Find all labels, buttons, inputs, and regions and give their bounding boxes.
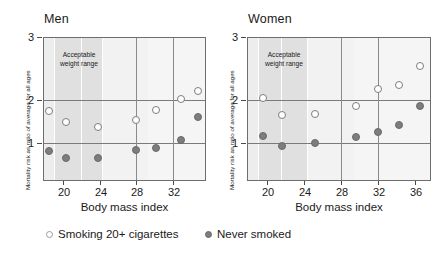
data-point-smoking [374,85,382,93]
panel-men-plot-area: Acceptable weight range [43,37,206,181]
data-point-never-smoked [45,147,53,155]
data-point-never-smoked [94,154,102,162]
data-point-never-smoked [278,142,286,150]
data-point-smoking [352,102,360,110]
panel-men-xtick-mark-28 [136,181,137,185]
panel-women-xtick-20: 20 [256,186,280,198]
panel-men-ytick-1: 1 [20,137,34,149]
gridline-x-28 [136,37,137,181]
data-point-smoking [311,110,319,118]
panel-women-y-axis-label: Mortality risk as ratio of average for a… [228,70,235,190]
panel-men-xtick-20: 20 [52,186,76,198]
panel-women-ytick-mark-3 [241,37,246,38]
panel-men-ytick-2: 2 [20,94,34,106]
panel-women-xtick-36: 36 [404,186,428,198]
panel-women-xtick-mark-20 [267,181,268,185]
annotation-line-2: weight range [265,60,303,67]
data-point-never-smoked [132,146,140,154]
data-point-never-smoked [352,133,360,141]
panel-women-xtick-mark-24 [304,181,305,185]
data-point-never-smoked [62,154,70,162]
band-overweight [102,37,148,181]
panel-women-title: Women [248,12,292,26]
legend-item-never-smoked: Never smoked [205,228,291,240]
data-point-smoking [62,118,70,126]
annotation-acceptable-weight-range: Acceptable weight range [256,51,312,68]
panel-women-plot-area: Acceptable weight range [247,37,431,181]
legend-label-smoking: Smoking 20+ cigarettes [58,228,179,240]
annotation-line-1: Acceptable [63,51,96,58]
data-point-never-smoked [259,132,267,140]
panel-women-xtick-24: 24 [293,186,317,198]
gridline-y-2 [247,100,431,101]
panel-women-x-axis-title: Body mass index [247,201,431,213]
gridline-x-32 [378,37,379,181]
data-point-smoking [132,116,140,124]
data-point-smoking [416,62,424,70]
data-point-smoking [152,106,160,114]
data-point-never-smoked [152,144,160,152]
panel-women-xtick-mark-32 [378,181,379,185]
data-point-smoking [259,94,267,102]
panel-women-ytick-2: 2 [224,94,238,106]
annotation-line-2: weight range [60,60,98,67]
data-point-smoking [194,87,202,95]
legend: Smoking 20+ cigarettes Never smoked [0,228,441,250]
gridline-x-28 [341,37,342,181]
data-point-never-smoked [177,136,185,144]
figure-mortality-risk-bmi: Men Mortality risk as ratio of average f… [0,0,441,254]
panel-women-xtick-mark-36 [415,181,416,185]
panel-men-title: Men [44,12,69,26]
data-point-never-smoked [311,139,319,147]
data-point-never-smoked [395,121,403,129]
gridline-x-32 [173,37,174,181]
data-point-never-smoked [374,128,382,136]
legend-item-smoking: Smoking 20+ cigarettes [46,228,179,240]
data-point-smoking [278,111,286,119]
panel-men-x-axis-title: Body mass index [43,201,206,213]
data-point-smoking [177,95,185,103]
filled-circle-icon [205,231,212,238]
panel-men-ytick-mark-3 [37,37,42,38]
panel-men-xtick-mark-20 [63,181,64,185]
band-overweight [307,37,354,181]
data-point-never-smoked [416,102,424,110]
panel-women: Women Mortality risk as ratio of average… [214,0,441,222]
panel-men-xtick-24: 24 [89,186,113,198]
panel-men-y-axis-label: Mortality risk as ratio of average for a… [24,70,31,190]
legend-label-never-smoked: Never smoked [217,228,291,240]
panel-men-ytick-3: 3 [20,31,34,43]
panel-women-ytick-3: 3 [224,31,238,43]
panel-women-ytick-1: 1 [224,137,238,149]
panel-women-xtick-mark-28 [341,181,342,185]
annotation-acceptable-weight-range: Acceptable weight range [51,51,107,68]
gridline-y-3 [43,37,206,38]
panel-women-xtick-28: 28 [330,186,354,198]
panel-men-xtick-mark-32 [173,181,174,185]
data-point-smoking [395,81,403,89]
panel-men-xtick-mark-24 [100,181,101,185]
data-point-never-smoked [194,113,202,121]
gridline-y-3 [247,37,431,38]
data-point-smoking [94,123,102,131]
panel-men-ytick-mark-1 [37,143,42,144]
panel-women-xtick-32: 32 [367,186,391,198]
panel-men-ytick-mark-2 [37,100,42,101]
panel-men-xtick-28: 28 [125,186,149,198]
panel-women-ytick-mark-1 [241,143,246,144]
open-circle-icon [46,231,53,238]
panel-women-ytick-mark-2 [241,100,246,101]
annotation-line-1: Acceptable [268,51,301,58]
panel-men: Men Mortality risk as ratio of average f… [0,0,222,222]
gridline-y-1 [247,143,431,144]
data-point-smoking [45,107,53,115]
panel-men-xtick-32: 32 [162,186,186,198]
